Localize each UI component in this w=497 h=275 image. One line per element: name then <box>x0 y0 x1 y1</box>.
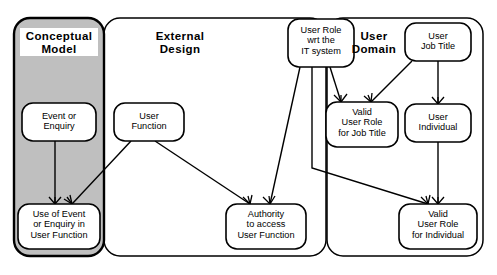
entity-use-of-event-or-enquiry-in-user-function <box>18 204 100 249</box>
rel-jobtitle-to-validjobtitle <box>364 61 412 102</box>
rel-userrole-to-validjobtitle <box>330 67 347 102</box>
rel-userfunction-to-authority <box>155 141 252 204</box>
entity-user-individual <box>405 104 471 142</box>
conceptual-model-label-plate <box>20 28 98 56</box>
entity-authority-to-access-user-function <box>226 204 306 249</box>
entity-event-or-enquiry <box>22 103 96 141</box>
entity-valid-user-role-for-job-title <box>326 102 398 147</box>
entity-user-job-title <box>405 23 471 61</box>
entity-user-role-wrt-the-it-system <box>288 19 354 67</box>
diagram-canvas <box>0 0 497 275</box>
rel-userrole-to-authority <box>263 67 300 204</box>
entity-valid-user-role-for-individual <box>399 204 477 249</box>
entity-user-function <box>114 103 184 141</box>
rel-individual-to-validindividual <box>432 142 444 204</box>
entity-relationship-diagram: Conceptual Model External Design User Do… <box>0 0 497 275</box>
rel-jobtitle-to-individual <box>432 61 444 104</box>
